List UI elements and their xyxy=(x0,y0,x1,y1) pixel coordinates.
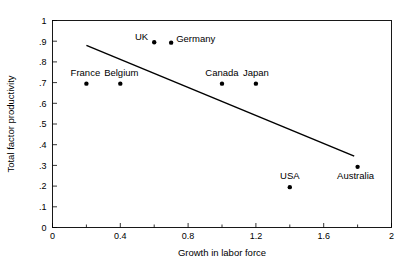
y-tick-label: .4 xyxy=(39,140,47,150)
x-tick-label: 1.2 xyxy=(250,231,263,241)
y-axis-tick-labels: 0.1.2.3.4.5.6.7.8.91 xyxy=(39,16,47,233)
x-tick-label: 0 xyxy=(50,231,55,241)
trend-line xyxy=(86,45,354,156)
data-point-usa xyxy=(288,185,292,189)
y-tick-label: .9 xyxy=(39,37,47,47)
y-tick-label: .1 xyxy=(39,202,47,212)
data-point-japan xyxy=(254,81,258,85)
point-labels-group: FranceBelgiumUKGermanyCanadaJapanUSAAust… xyxy=(71,31,375,181)
y-tick-label: .5 xyxy=(39,119,47,129)
y-tick-label: .2 xyxy=(39,181,47,191)
data-point-label-japan: Japan xyxy=(243,67,269,78)
data-point-uk xyxy=(152,40,156,44)
data-point-label-belgium: Belgium xyxy=(104,67,138,78)
data-point-label-usa: USA xyxy=(280,170,300,181)
x-tick-label: 1.6 xyxy=(317,231,330,241)
scatter-plot-svg: 00.40.81.21.62 0.1.2.3.4.5.6.7.8.91 Fran… xyxy=(0,0,414,268)
x-tick-label: 2 xyxy=(389,231,394,241)
y-tick-label: .3 xyxy=(39,161,47,171)
x-tick-label: 0.8 xyxy=(182,231,195,241)
data-point-label-france: France xyxy=(71,67,101,78)
x-tick-label: 0.4 xyxy=(114,231,127,241)
data-point-germany xyxy=(169,40,173,44)
y-tick-label: .6 xyxy=(39,99,47,109)
data-points-group xyxy=(84,40,360,189)
x-axis-tick-labels: 00.40.81.21.62 xyxy=(50,231,394,241)
data-point-label-australia: Australia xyxy=(337,170,375,181)
y-tick-label: 0 xyxy=(41,223,46,233)
chart-figure: 00.40.81.21.62 0.1.2.3.4.5.6.7.8.91 Fran… xyxy=(0,0,414,268)
y-axis-ticks xyxy=(53,21,58,228)
data-point-canada xyxy=(220,81,224,85)
data-point-label-canada: Canada xyxy=(205,67,239,78)
data-point-france xyxy=(84,81,88,85)
data-point-label-germany: Germany xyxy=(176,33,215,44)
x-axis-title: Growth in labor force xyxy=(178,247,266,258)
data-point-australia xyxy=(355,165,359,169)
trend-line-group xyxy=(86,45,354,156)
y-axis-title: Total factor productivity xyxy=(5,75,16,172)
y-tick-label: .8 xyxy=(39,57,47,67)
y-tick-label: .7 xyxy=(39,78,47,88)
y-tick-label: 1 xyxy=(41,16,46,26)
x-axis-ticks xyxy=(53,223,392,228)
data-point-belgium xyxy=(118,81,122,85)
data-point-label-uk: UK xyxy=(135,31,149,42)
